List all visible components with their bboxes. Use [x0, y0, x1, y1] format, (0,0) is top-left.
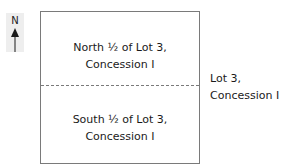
south-half-line2: Concession I — [41, 128, 199, 145]
north-half-line2: Concession I — [41, 56, 199, 73]
side-label-line1: Lot 3, — [210, 70, 279, 87]
north-label: N — [6, 15, 24, 27]
north-half-line1: North ½ of Lot 3, — [41, 39, 199, 56]
lot-side-label: Lot 3, Concession I — [210, 70, 279, 104]
north-arrow-icon — [10, 28, 20, 52]
lot-3-boundary: North ½ of Lot 3, Concession I South ½ o… — [40, 11, 200, 164]
side-label-line2: Concession I — [210, 87, 279, 104]
south-half-label: South ½ of Lot 3, Concession I — [41, 111, 199, 145]
half-divider-line — [41, 85, 199, 86]
south-half-line1: South ½ of Lot 3, — [41, 111, 199, 128]
north-compass: N — [6, 13, 24, 52]
north-half-label: North ½ of Lot 3, Concession I — [41, 39, 199, 73]
